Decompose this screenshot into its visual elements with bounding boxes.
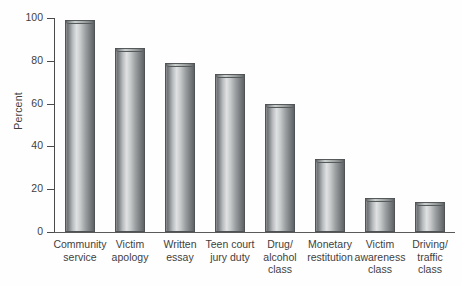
bar-top-cap	[415, 202, 445, 206]
x-axis-line	[54, 232, 455, 233]
y-axis-tick-label: 20	[9, 183, 43, 194]
y-axis-tick-label: 0	[9, 226, 43, 237]
bar-top-cap	[315, 159, 345, 163]
bar-chart: Percent 100806040200 CommunityserviceVic…	[0, 0, 462, 286]
bar	[165, 63, 195, 232]
y-axis-tick	[47, 18, 54, 19]
y-axis-tick	[47, 189, 54, 190]
category-label-line: traffic	[399, 251, 461, 264]
y-axis-title: Percent	[12, 71, 24, 151]
y-axis-tick-label: 60	[9, 98, 43, 109]
bar	[365, 198, 395, 232]
category-label-line: class	[249, 263, 311, 276]
y-axis-tick-label: 40	[9, 140, 43, 151]
bar	[115, 48, 145, 232]
plot-area	[55, 18, 455, 232]
y-axis-tick	[47, 146, 54, 147]
bar-top-cap	[365, 198, 395, 202]
bar	[215, 74, 245, 232]
category-label-line: Driving/	[399, 238, 461, 251]
bar-top-cap	[265, 104, 295, 108]
bar-top-cap	[215, 74, 245, 78]
y-axis-tick-label: 100	[9, 12, 43, 23]
y-axis-tick	[47, 61, 54, 62]
y-axis-tick	[47, 232, 54, 233]
bar-top-cap	[165, 63, 195, 67]
bar	[415, 202, 445, 232]
bar-top-cap	[65, 20, 95, 24]
bar-top-cap	[115, 48, 145, 52]
y-axis-tick	[47, 104, 54, 105]
bar	[65, 20, 95, 232]
bar	[265, 104, 295, 232]
bar	[315, 159, 345, 232]
category-label: Driving/trafficclass	[399, 238, 461, 276]
y-axis-tick-label: 80	[9, 55, 43, 66]
category-label-line: class	[399, 263, 461, 276]
